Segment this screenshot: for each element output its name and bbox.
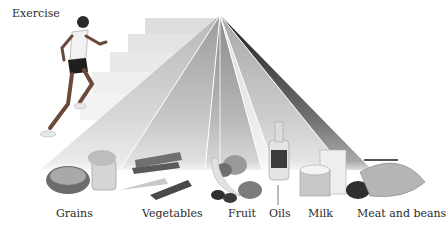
label-milk: Milk (308, 207, 333, 220)
label-oils: Oils (269, 207, 291, 220)
label-vegetables: Vegetables (142, 207, 203, 220)
label-fruit: Fruit (228, 207, 256, 220)
label-grains: Grains (56, 207, 93, 220)
label-meat-and-beans: Meat and beans (357, 207, 446, 220)
exercise-label: Exercise (12, 7, 60, 20)
